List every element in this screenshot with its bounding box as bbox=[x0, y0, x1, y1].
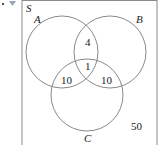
region-b-c-value: 10 bbox=[101, 74, 113, 86]
region-a-c-value: 10 bbox=[61, 74, 73, 86]
bullet-dot-icon bbox=[2, 3, 4, 5]
set-c-label: C bbox=[84, 132, 92, 144]
triangle-down-icon bbox=[9, 1, 16, 6]
region-outside-value: 50 bbox=[131, 120, 143, 132]
universe-label: S bbox=[26, 2, 32, 14]
region-a-b-c-value: 1 bbox=[85, 60, 91, 72]
region-a-b-value: 4 bbox=[85, 36, 91, 48]
set-a-label: A bbox=[33, 13, 41, 25]
set-b-label: B bbox=[136, 13, 143, 25]
venn-diagram: S A B C 4 1 10 10 50 bbox=[0, 0, 161, 145]
